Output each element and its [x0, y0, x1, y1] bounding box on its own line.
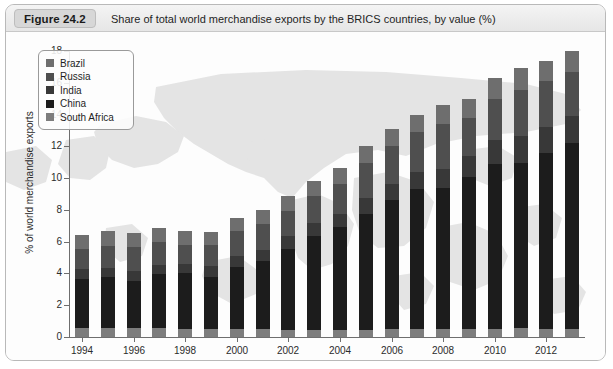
bar-segment-china[interactable]: [152, 274, 166, 328]
bar-segment-russia[interactable]: [333, 184, 347, 214]
bar-segment-brazil[interactable]: [385, 129, 399, 146]
bar-segment-india[interactable]: [333, 214, 347, 227]
bar-group[interactable]: [307, 181, 321, 338]
bar-segment-south-africa[interactable]: [359, 330, 373, 337]
bar-segment-south-africa[interactable]: [178, 329, 192, 337]
bar-segment-china[interactable]: [281, 249, 295, 330]
bar-group[interactable]: [204, 232, 218, 337]
bar-segment-russia[interactable]: [178, 245, 192, 264]
bar-segment-china[interactable]: [101, 277, 115, 328]
bar-segment-russia[interactable]: [204, 245, 218, 266]
bar-segment-brazil[interactable]: [281, 196, 295, 210]
bar-segment-brazil[interactable]: [333, 168, 347, 184]
bar-segment-russia[interactable]: [488, 99, 502, 140]
bar-segment-china[interactable]: [436, 188, 450, 329]
bar-segment-india[interactable]: [75, 269, 89, 279]
bar-segment-china[interactable]: [462, 177, 476, 330]
bar-group[interactable]: [565, 51, 579, 337]
bar-segment-india[interactable]: [152, 265, 166, 275]
legend-item[interactable]: Brazil: [46, 57, 127, 70]
bar-segment-india[interactable]: [101, 268, 115, 278]
bar-segment-south-africa[interactable]: [75, 328, 89, 337]
bar-segment-russia[interactable]: [281, 211, 295, 236]
bar-segment-russia[interactable]: [75, 249, 89, 270]
bar-segment-south-africa[interactable]: [127, 328, 141, 337]
bar-group[interactable]: [230, 218, 244, 337]
bar-segment-south-africa[interactable]: [565, 329, 579, 337]
bar-group[interactable]: [514, 68, 528, 337]
bar-segment-china[interactable]: [178, 273, 192, 329]
bar-segment-brazil[interactable]: [178, 231, 192, 245]
bar-segment-south-africa[interactable]: [436, 329, 450, 337]
bar-segment-brazil[interactable]: [101, 231, 115, 245]
bar-segment-russia[interactable]: [359, 163, 373, 198]
bar-group[interactable]: [385, 129, 399, 337]
bar-segment-china[interactable]: [256, 261, 270, 329]
bar-segment-china[interactable]: [385, 200, 399, 329]
bar-segment-india[interactable]: [514, 136, 528, 163]
bar-segment-south-africa[interactable]: [230, 329, 244, 337]
bar-segment-brazil[interactable]: [488, 78, 502, 99]
bar-segment-russia[interactable]: [230, 231, 244, 256]
bar-segment-india[interactable]: [436, 169, 450, 188]
bar-segment-brazil[interactable]: [436, 105, 450, 124]
bar-segment-russia[interactable]: [152, 242, 166, 264]
bar-segment-brazil[interactable]: [539, 61, 553, 82]
bar-segment-brazil[interactable]: [565, 51, 579, 72]
bar-segment-china[interactable]: [75, 279, 89, 328]
bar-group[interactable]: [178, 231, 192, 337]
bar-segment-brazil[interactable]: [307, 181, 321, 197]
bar-segment-brazil[interactable]: [462, 99, 476, 118]
bar-segment-china[interactable]: [307, 236, 321, 330]
bar-group[interactable]: [256, 210, 270, 337]
bar-segment-south-africa[interactable]: [152, 328, 166, 337]
bar-segment-brazil[interactable]: [127, 233, 141, 247]
bar-segment-brazil[interactable]: [514, 68, 528, 90]
legend-item[interactable]: India: [46, 84, 127, 97]
bar-segment-brazil[interactable]: [256, 210, 270, 224]
bar-segment-india[interactable]: [204, 266, 218, 277]
bar-group[interactable]: [281, 196, 295, 337]
bar-segment-india[interactable]: [565, 116, 579, 143]
bar-segment-south-africa[interactable]: [462, 329, 476, 337]
bar-group[interactable]: [75, 235, 89, 337]
bar-segment-china[interactable]: [359, 214, 373, 330]
legend-item[interactable]: Russia: [46, 70, 127, 83]
bar-segment-south-africa[interactable]: [307, 330, 321, 337]
bar-segment-brazil[interactable]: [410, 115, 424, 132]
bar-group[interactable]: [436, 105, 450, 337]
bar-segment-south-africa[interactable]: [488, 329, 502, 337]
bar-segment-russia[interactable]: [565, 72, 579, 116]
bar-group[interactable]: [333, 168, 347, 337]
bar-segment-india[interactable]: [385, 184, 399, 200]
bar-segment-russia[interactable]: [514, 90, 528, 136]
bar-segment-china[interactable]: [204, 277, 218, 329]
bar-segment-india[interactable]: [230, 256, 244, 267]
bar-group[interactable]: [410, 115, 424, 337]
bar-group[interactable]: [488, 78, 502, 337]
bar-segment-india[interactable]: [462, 156, 476, 177]
bar-segment-russia[interactable]: [307, 196, 321, 223]
bar-group[interactable]: [462, 99, 476, 337]
bar-segment-south-africa[interactable]: [281, 330, 295, 337]
bar-segment-brazil[interactable]: [230, 218, 244, 231]
bar-segment-brazil[interactable]: [204, 232, 218, 245]
bar-segment-brazil[interactable]: [152, 228, 166, 242]
bar-segment-india[interactable]: [307, 223, 321, 236]
bar-segment-china[interactable]: [539, 153, 553, 329]
bar-segment-south-africa[interactable]: [101, 328, 115, 337]
bar-group[interactable]: [539, 61, 553, 337]
bar-segment-south-africa[interactable]: [256, 329, 270, 337]
bar-segment-russia[interactable]: [462, 118, 476, 156]
bar-group[interactable]: [152, 228, 166, 337]
bar-segment-china[interactable]: [127, 281, 141, 329]
bar-segment-russia[interactable]: [256, 224, 270, 249]
bar-segment-china[interactable]: [333, 227, 347, 330]
bar-segment-south-africa[interactable]: [385, 329, 399, 337]
bar-segment-brazil[interactable]: [359, 146, 373, 163]
bar-group[interactable]: [127, 233, 141, 337]
legend-item[interactable]: South Africa: [46, 111, 127, 124]
bar-segment-india[interactable]: [488, 140, 502, 164]
bar-group[interactable]: [359, 146, 373, 337]
bar-segment-india[interactable]: [539, 127, 553, 152]
